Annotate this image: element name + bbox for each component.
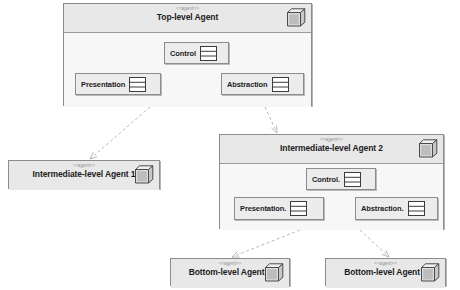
link-intermediate-2-to-bottom-2 — [360, 230, 389, 257]
class-rectangle-icon — [129, 77, 146, 92]
class-rectangle-icon — [408, 201, 425, 216]
component-presentation[interactable]: Presentation — [75, 73, 161, 95]
component-label: Abstraction — [227, 80, 268, 89]
component-abstraction[interactable]: Abstraction — [221, 73, 304, 95]
link-top-to-intermediate-1 — [90, 107, 150, 159]
link-top-to-intermediate-2 — [265, 107, 277, 133]
component-cube-icon — [419, 139, 438, 158]
agent-bottom-level-agent-2[interactable]: <<agent>>Bottom-level Agent 2 — [325, 258, 446, 286]
agent-header: <<agent>>Bottom-level Agent 1 — [171, 259, 289, 288]
agent-name: Intermediate-level Agent 2 — [220, 143, 443, 154]
component-control[interactable]: Control — [164, 42, 229, 64]
agent-body: Control.Presentation.Abstraction. — [220, 164, 443, 230]
component-control[interactable]: Control. — [306, 168, 376, 190]
agent-name: Top-level Agent — [64, 12, 311, 23]
agent-top-level-agent[interactable]: <<agent>>Top-level AgentControlPresentat… — [63, 3, 312, 106]
class-rectangle-icon — [272, 77, 289, 92]
class-rectangle-icon — [344, 172, 361, 187]
component-abstraction[interactable]: Abstraction. — [355, 197, 438, 220]
component-presentation[interactable]: Presentation. — [234, 197, 324, 220]
component-label: Abstraction. — [361, 204, 404, 213]
component-cube-icon — [265, 263, 284, 282]
component-label: Control — [170, 49, 196, 58]
agent-intermediate-level-agent-2[interactable]: <<agent>>Intermediate-level Agent 2Contr… — [219, 134, 444, 229]
diagram-canvas: <<agent>>Top-level AgentControlPresentat… — [0, 0, 460, 290]
link-intermediate-2-to-bottom-1 — [232, 230, 300, 257]
agent-bottom-level-agent-1[interactable]: <<agent>>Bottom-level Agent 1 — [170, 258, 290, 286]
class-rectangle-icon — [200, 46, 217, 61]
agent-header: <<agent>>Bottom-level Agent 2 — [326, 259, 445, 288]
agent-header: <<agent>>Intermediate-level Agent 2 — [220, 135, 443, 164]
agent-intermediate-level-agent-1[interactable]: <<agent>>Intermediate-level Agent 1 — [8, 160, 160, 189]
component-label: Control. — [312, 175, 340, 184]
component-cube-icon — [135, 165, 154, 184]
agent-header: <<agent>>Intermediate-level Agent 1 — [9, 161, 159, 190]
class-rectangle-icon — [290, 201, 307, 216]
component-cube-icon — [421, 263, 440, 282]
component-label: Presentation — [81, 80, 125, 89]
component-cube-icon — [287, 8, 306, 27]
agent-body: ControlPresentationAbstraction — [64, 33, 311, 107]
agent-header: <<agent>>Top-level Agent — [64, 4, 311, 33]
component-label: Presentation. — [240, 204, 286, 213]
